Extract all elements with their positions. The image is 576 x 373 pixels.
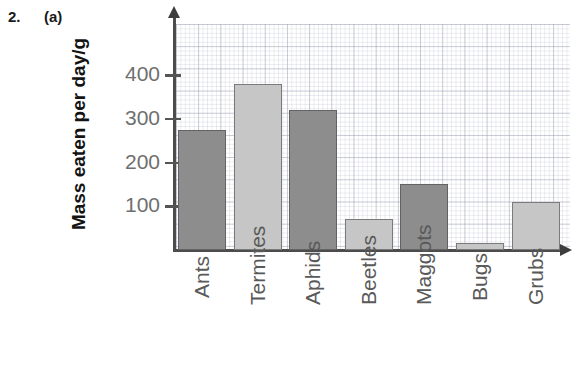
y-axis-tick-label-text: 300 — [108, 107, 160, 128]
bar — [512, 202, 560, 250]
x-axis-category-label: Aphids — [285, 252, 341, 274]
x-axis-category-label: Ants — [174, 252, 230, 274]
x-axis-category-label: Termites — [230, 252, 286, 274]
x-axis-category-label-text: Maggots — [413, 249, 435, 305]
x-axis-category-label: Bugs — [452, 252, 508, 274]
x-axis-category-label-text: Termites — [247, 249, 269, 305]
x-axis-category-label: Beetles — [341, 252, 397, 274]
y-axis-title-text: Mass eaten per day/g — [64, 9, 94, 259]
y-axis-tick-label: 300 — [104, 107, 160, 129]
bar — [178, 130, 226, 250]
x-axis-category-label: Grubs — [508, 252, 564, 274]
question-part-label: (a) — [44, 8, 62, 25]
y-axis-tick-label: 100 — [104, 194, 160, 216]
x-axis-category-label: Maggots — [396, 252, 452, 274]
x-axis-category-labels: AntsTermitesAphidsBeetlesMaggotsBugsGrub… — [176, 252, 570, 373]
y-axis-title: Mass eaten per day/g — [62, 0, 96, 268]
bar-series — [176, 24, 570, 250]
x-axis-category-label-text: Beetles — [358, 249, 380, 305]
y-axis-tick-label-text: 400 — [108, 63, 160, 84]
bar-chart-figure: 2. (a) Mass eaten per day/g 100200300400… — [0, 0, 576, 373]
y-axis-tick-label-text: 200 — [108, 151, 160, 172]
y-axis-tick-label: 200 — [104, 151, 160, 173]
question-number: 2. — [8, 8, 21, 25]
y-axis-tick-label-text: 100 — [108, 194, 160, 215]
x-axis-category-label-text: Ants — [191, 249, 213, 305]
bar — [289, 110, 337, 250]
x-axis-category-label-text: Grubs — [525, 249, 547, 305]
x-axis-category-label-text: Bugs — [469, 249, 491, 305]
x-axis-category-label-text: Aphids — [302, 249, 324, 305]
y-axis-arrow-icon — [168, 6, 180, 18]
y-axis-tick-label: 400 — [104, 63, 160, 85]
